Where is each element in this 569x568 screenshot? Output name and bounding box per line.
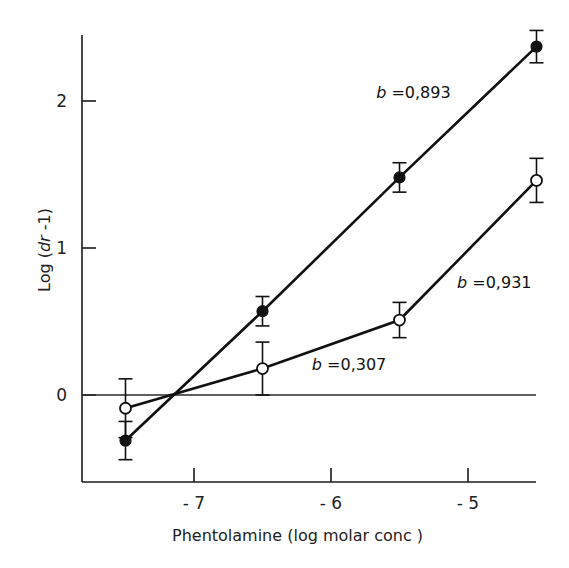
- slope-value: =0,931: [467, 273, 531, 292]
- open-circle-marker: [531, 175, 542, 186]
- open-circle-marker: [120, 403, 131, 414]
- y-tick-label: 2: [56, 91, 67, 111]
- slope-annotation: b =0,931: [457, 273, 531, 292]
- x-tick-label: - 7: [183, 493, 205, 513]
- y-tick-label: 0: [56, 385, 67, 405]
- slope-value: =0,307: [322, 355, 386, 374]
- filled-circle-marker: [531, 41, 542, 52]
- series-line: [126, 180, 537, 408]
- slope-annotation: b =0,893: [376, 83, 450, 102]
- y-axis-title: Log (dr -1): [35, 208, 54, 292]
- filled-circle-marker: [257, 306, 268, 317]
- open-circle-marker: [394, 315, 405, 326]
- log-dr-chart: 012- 7- 6- 5 b =0,893b =0,307b =0,931Phe…: [0, 0, 569, 568]
- series-open: [119, 158, 544, 437]
- x-tick-label: - 5: [457, 493, 479, 513]
- slope-annotation: b =0,307: [312, 355, 386, 374]
- slope-value: =0,893: [386, 83, 450, 102]
- slope-symbol: b: [457, 273, 467, 292]
- x-tick-label: - 6: [320, 493, 342, 513]
- filled-circle-marker: [394, 172, 405, 183]
- labels-group: b =0,893b =0,307b =0,931Phentolamine (lo…: [35, 83, 531, 545]
- slope-symbol: b: [312, 355, 322, 374]
- x-axis-title: Phentolamine (log molar conc ): [172, 526, 423, 545]
- y-tick-label: 1: [56, 238, 67, 258]
- slope-symbol: b: [376, 83, 386, 102]
- open-circle-marker: [257, 363, 268, 374]
